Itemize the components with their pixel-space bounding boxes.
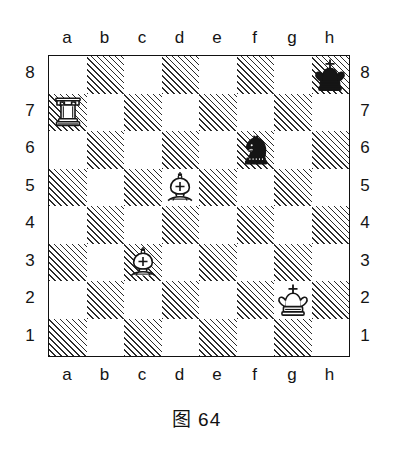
- file-label-top-b: b: [86, 29, 124, 47]
- rank-label-right-5: 5: [355, 177, 375, 195]
- square-d6[interactable]: [162, 131, 200, 169]
- square-c1[interactable]: [124, 319, 162, 357]
- square-h7[interactable]: [312, 94, 350, 132]
- rank-label-left-1: 1: [20, 327, 40, 345]
- square-h2[interactable]: [312, 281, 350, 319]
- square-e1[interactable]: [199, 319, 237, 357]
- square-d1[interactable]: [162, 319, 200, 357]
- square-b1[interactable]: [87, 319, 125, 357]
- square-c7[interactable]: [124, 94, 162, 132]
- square-c2[interactable]: [124, 281, 162, 319]
- square-h5[interactable]: [312, 169, 350, 207]
- square-b3[interactable]: [87, 244, 125, 282]
- square-g6[interactable]: [274, 131, 312, 169]
- square-a2[interactable]: [49, 281, 87, 319]
- rank-label-right-4: 4: [355, 214, 375, 232]
- square-h6[interactable]: [312, 131, 350, 169]
- square-g1[interactable]: [274, 319, 312, 357]
- square-b6[interactable]: [87, 131, 125, 169]
- rank-label-right-1: 1: [355, 327, 375, 345]
- file-label-top-d: d: [161, 29, 199, 47]
- square-f8[interactable]: [237, 56, 275, 94]
- square-e8[interactable]: [199, 56, 237, 94]
- square-h3[interactable]: [312, 244, 350, 282]
- rank-label-left-5: 5: [20, 177, 40, 195]
- chess-diagram-figure: abcdefgh 87654321 87654321: [0, 0, 393, 450]
- file-label-bottom-c: c: [123, 366, 161, 384]
- rank-label-right-6: 6: [355, 139, 375, 157]
- square-e7[interactable]: [199, 94, 237, 132]
- square-e3[interactable]: [199, 244, 237, 282]
- square-a4[interactable]: [49, 206, 87, 244]
- rank-label-left-7: 7: [20, 102, 40, 120]
- square-c8[interactable]: [124, 56, 162, 94]
- file-label-bottom-d: d: [161, 366, 199, 384]
- file-label-bottom-b: b: [86, 366, 124, 384]
- square-d5[interactable]: [162, 169, 200, 207]
- file-label-top-f: f: [236, 29, 274, 47]
- square-b8[interactable]: [87, 56, 125, 94]
- file-label-bottom-h: h: [311, 366, 349, 384]
- square-a6[interactable]: [49, 131, 87, 169]
- square-g5[interactable]: [274, 169, 312, 207]
- file-label-bottom-g: g: [273, 366, 311, 384]
- rank-label-right-8: 8: [355, 64, 375, 82]
- square-e4[interactable]: [199, 206, 237, 244]
- square-b7[interactable]: [87, 94, 125, 132]
- square-g3[interactable]: [274, 244, 312, 282]
- rank-label-left-8: 8: [20, 64, 40, 82]
- rank-label-left-4: 4: [20, 214, 40, 232]
- file-label-top-e: e: [198, 29, 236, 47]
- square-f1[interactable]: [237, 319, 275, 357]
- file-label-bottom-f: f: [236, 366, 274, 384]
- chessboard[interactable]: [48, 55, 350, 357]
- figure-caption: 图 64: [0, 404, 393, 431]
- square-a5[interactable]: [49, 169, 87, 207]
- square-h1[interactable]: [312, 319, 350, 357]
- square-f6[interactable]: [237, 131, 275, 169]
- square-a7[interactable]: [49, 94, 87, 132]
- square-e6[interactable]: [199, 131, 237, 169]
- square-a3[interactable]: [49, 244, 87, 282]
- square-f5[interactable]: [237, 169, 275, 207]
- square-e5[interactable]: [199, 169, 237, 207]
- file-label-top-h: h: [311, 29, 349, 47]
- rank-label-left-2: 2: [20, 289, 40, 307]
- square-a8[interactable]: [49, 56, 87, 94]
- square-b4[interactable]: [87, 206, 125, 244]
- square-g2[interactable]: [274, 281, 312, 319]
- rank-label-left-3: 3: [20, 252, 40, 270]
- file-label-top-a: a: [48, 29, 86, 47]
- square-d4[interactable]: [162, 206, 200, 244]
- square-b2[interactable]: [87, 281, 125, 319]
- square-d8[interactable]: [162, 56, 200, 94]
- square-c4[interactable]: [124, 206, 162, 244]
- file-label-top-g: g: [273, 29, 311, 47]
- square-e2[interactable]: [199, 281, 237, 319]
- square-b5[interactable]: [87, 169, 125, 207]
- square-f4[interactable]: [237, 206, 275, 244]
- file-label-bottom-a: a: [48, 366, 86, 384]
- square-d3[interactable]: [162, 244, 200, 282]
- square-c6[interactable]: [124, 131, 162, 169]
- square-g8[interactable]: [274, 56, 312, 94]
- square-h8[interactable]: [312, 56, 350, 94]
- file-label-bottom-e: e: [198, 366, 236, 384]
- square-h4[interactable]: [312, 206, 350, 244]
- square-f3[interactable]: [237, 244, 275, 282]
- square-g4[interactable]: [274, 206, 312, 244]
- square-d7[interactable]: [162, 94, 200, 132]
- square-g7[interactable]: [274, 94, 312, 132]
- square-c3[interactable]: [124, 244, 162, 282]
- rank-label-left-6: 6: [20, 139, 40, 157]
- file-label-top-c: c: [123, 29, 161, 47]
- rank-label-right-3: 3: [355, 252, 375, 270]
- square-f2[interactable]: [237, 281, 275, 319]
- square-d2[interactable]: [162, 281, 200, 319]
- square-c5[interactable]: [124, 169, 162, 207]
- square-a1[interactable]: [49, 319, 87, 357]
- rank-label-right-2: 2: [355, 289, 375, 307]
- rank-label-right-7: 7: [355, 102, 375, 120]
- square-f7[interactable]: [237, 94, 275, 132]
